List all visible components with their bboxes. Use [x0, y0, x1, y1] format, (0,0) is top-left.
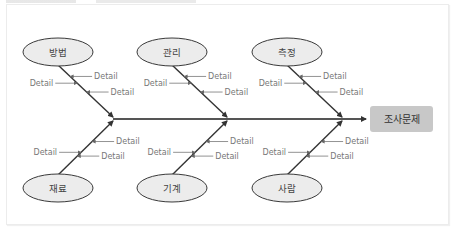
detail-label: Detail [116, 137, 140, 146]
category-label: 재료 [49, 183, 67, 194]
detail-label: Detail [208, 72, 232, 81]
detail-label: Detail [111, 88, 135, 97]
bone-bottom-0 [58, 121, 113, 175]
detail-label: Detail [215, 152, 239, 161]
effect-label: 조사문제 [384, 114, 420, 125]
detail-label: Detail [340, 88, 364, 97]
category-label: 측정 [278, 47, 296, 58]
bone-bottom-2 [287, 121, 342, 175]
category-label: 사람 [278, 183, 296, 194]
detail-label: Detail [148, 148, 172, 157]
detail-label: Detail [259, 79, 283, 88]
detail-label: Detail [94, 72, 118, 81]
category-label: 방법 [49, 47, 67, 58]
detail-label: Detail [144, 79, 168, 88]
detail-label: Detail [34, 148, 58, 157]
detail-label: Detail [30, 79, 54, 88]
category-label: 관리 [163, 47, 181, 58]
detail-label: Detail [225, 88, 249, 97]
detail-label: Detail [345, 137, 369, 146]
detail-label: Detail [323, 72, 347, 81]
detail-label: Detail [230, 137, 254, 146]
bone-bottom-1 [172, 121, 227, 175]
detail-label: Detail [263, 148, 287, 157]
detail-label: Detail [101, 152, 125, 161]
fishbone-diagram: 방법DetailDetailDetail관리DetailDetailDetail… [0, 0, 456, 232]
category-label: 기계 [163, 183, 181, 194]
detail-label: Detail [330, 152, 354, 161]
